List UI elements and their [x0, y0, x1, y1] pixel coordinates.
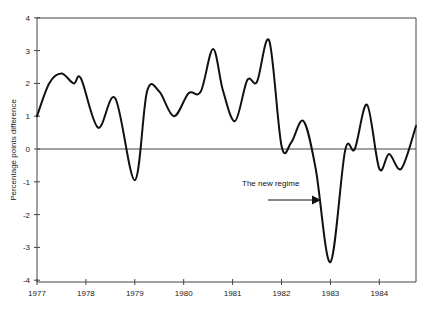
y-tick-label: 2 — [26, 79, 31, 88]
y-tick-label: 0 — [26, 145, 31, 154]
x-tick-label: 1983 — [322, 289, 340, 298]
x-tick-label: 1977 — [28, 289, 46, 298]
y-tick-label: 4 — [26, 14, 31, 23]
y-tick-label: 1 — [26, 112, 31, 121]
x-tick-label: 1980 — [175, 289, 193, 298]
line-chart: 43210-1-2-3-4 19771978197919801981198219… — [0, 0, 428, 309]
x-tick-label: 1984 — [370, 289, 388, 298]
x-tick-label: 1982 — [273, 289, 291, 298]
y-axis-title: Percentage points difference — [9, 99, 18, 201]
x-tick-label: 1981 — [224, 289, 242, 298]
y-tick-label: -2 — [23, 211, 31, 220]
y-tick-label: -3 — [23, 243, 31, 252]
x-tick-label: 1979 — [126, 289, 144, 298]
series-line — [37, 39, 416, 262]
annotation: The new regime — [242, 179, 321, 205]
annotation-label: The new regime — [242, 179, 300, 188]
x-tick-label: 1978 — [77, 289, 95, 298]
y-tick-label: -1 — [23, 178, 31, 187]
y-tick-label: -4 — [23, 276, 31, 285]
y-tick-label: 3 — [26, 47, 31, 56]
plot-frame — [37, 18, 416, 282]
